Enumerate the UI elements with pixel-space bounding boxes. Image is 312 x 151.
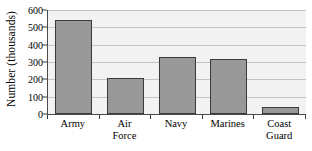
- x-tick-label: CoastGuard: [266, 118, 292, 142]
- y-tick-label: 300: [28, 57, 43, 68]
- x-tick-mark: [305, 115, 306, 119]
- x-tick-label: AirForce: [112, 118, 136, 142]
- plot-area: [47, 10, 306, 115]
- y-tick-label: 600: [28, 5, 43, 16]
- y-axis-title-text: Number (thousands): [5, 11, 17, 107]
- y-tick-mark: [42, 114, 47, 115]
- y-tick-mark: [42, 96, 47, 97]
- bars-group: [48, 10, 306, 114]
- y-tick-mark: [42, 27, 47, 28]
- y-tick-mark: [42, 44, 47, 45]
- x-tick-label-line: Army: [61, 118, 86, 129]
- y-tick-mark: [42, 62, 47, 63]
- bar-chart-figure: Number (thousands) 0100200300400500600 A…: [0, 0, 312, 151]
- y-tick-mark: [42, 79, 47, 80]
- x-tick-label: Army: [61, 118, 86, 130]
- y-tick-label: 100: [28, 91, 43, 102]
- y-tick-label: 400: [28, 39, 43, 50]
- x-tick-label: Marines: [210, 118, 244, 130]
- x-tick-label-line: Guard: [266, 130, 292, 142]
- bar-army: [55, 20, 92, 114]
- x-axis-tick-labels: ArmyAirForceNavyMarinesCoastGuard: [47, 118, 305, 151]
- bar-marines: [210, 59, 247, 114]
- y-tick-mark: [42, 10, 47, 11]
- y-tick-label: 200: [28, 74, 43, 85]
- x-tick-label-line: Navy: [165, 118, 188, 129]
- y-tick-label: 500: [28, 22, 43, 33]
- bar-air-force: [107, 78, 144, 114]
- bar-navy: [159, 57, 196, 114]
- x-tick-label: Navy: [165, 118, 188, 130]
- y-axis-tick-labels: 0100200300400500600: [18, 10, 43, 114]
- x-tick-label-line: Marines: [210, 118, 244, 129]
- x-tick-label-line: Force: [112, 130, 136, 142]
- x-tick-label-line: Coast: [267, 118, 291, 129]
- bar-coast-guard: [262, 107, 299, 114]
- x-tick-label-line: Air: [117, 118, 131, 129]
